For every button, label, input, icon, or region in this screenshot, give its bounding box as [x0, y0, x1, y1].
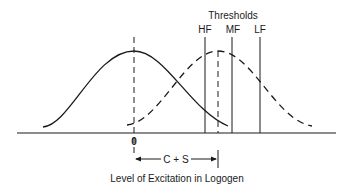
dashed-curve [127, 51, 312, 126]
threshold-mf-label: MF [226, 24, 240, 35]
solid-curve [43, 51, 228, 127]
x-axis-label: Level of Excitation in Logogen [110, 173, 243, 184]
thresholds-title: Thresholds [208, 10, 257, 21]
arrowhead-right-icon [211, 157, 217, 162]
zero-label: 0 [131, 136, 137, 147]
threshold-hf-label: HF [198, 24, 211, 35]
logogen-threshold-diagram: Thresholds HF MF LF 0 C + S Level of Exc… [0, 0, 349, 193]
threshold-lf-label: LF [254, 24, 266, 35]
arrowhead-left-icon [135, 157, 141, 162]
cs-label: C + S [163, 154, 189, 165]
